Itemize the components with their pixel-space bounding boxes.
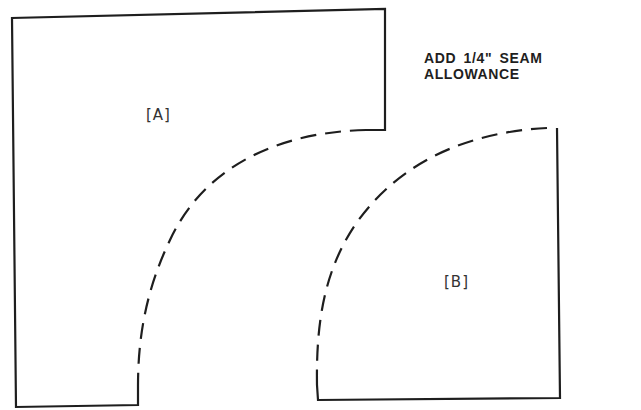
piece-a-label: [A] xyxy=(146,106,171,124)
pattern-diagram: ADD 1/4" SEAM ALLOWANCE [A] [B] xyxy=(0,0,641,410)
piece-b-solid-edge xyxy=(317,128,560,400)
piece-b-outline xyxy=(317,128,560,400)
piece-a-outline xyxy=(12,9,385,407)
piece-a-curved-seam xyxy=(138,130,366,386)
seam-allowance-note: ADD 1/4" SEAM ALLOWANCE xyxy=(424,50,641,82)
piece-b-label: [B] xyxy=(444,273,469,291)
piece-a-solid-edge xyxy=(12,9,385,407)
piece-b-curved-seam xyxy=(317,128,547,385)
